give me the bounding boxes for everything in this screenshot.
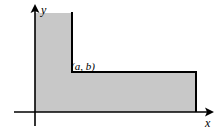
l-shaped-region-figure: y x (a, b) — [0, 0, 223, 131]
figure-container: y x (a, b) — [0, 0, 223, 131]
horizontal-strip-shading — [35, 72, 196, 112]
corner-point-label: (a, b) — [71, 60, 95, 73]
shaded-region-group — [35, 13, 196, 112]
y-axis-label: y — [40, 3, 47, 17]
x-axis-label: x — [204, 116, 211, 130]
